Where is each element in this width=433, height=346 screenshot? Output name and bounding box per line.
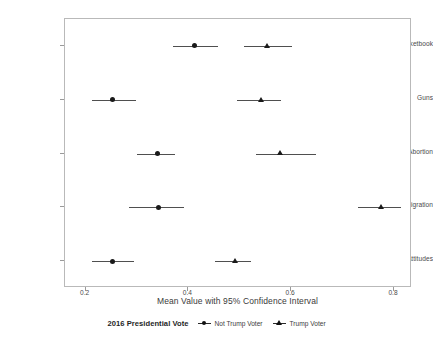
data-point-marker-circle (110, 97, 115, 102)
data-point-marker-circle (192, 43, 197, 48)
data-point-marker-triangle (258, 97, 264, 102)
x-tick-label-0.2: 0.2 (70, 289, 100, 296)
x-tick-label-0.6: 0.6 (275, 289, 305, 296)
data-point-marker-circle (156, 205, 161, 210)
x-tick-label-0.8: 0.8 (378, 289, 408, 296)
legend-title: 2016 Presidential Vote (107, 319, 188, 328)
data-point-marker-triangle (264, 43, 270, 48)
data-point-marker-triangle (277, 150, 283, 155)
legend-items: Not Trump VoterTrump Voter (198, 319, 326, 328)
legend-item-label: Trump Voter (290, 320, 326, 327)
legend-marker-circle-icon (198, 319, 211, 328)
plot-panel (64, 18, 411, 287)
legend-item-not-trump-voter[interactable]: Not Trump Voter (198, 319, 263, 328)
x-axis-title: Mean Value with 95% Confidence Interval (64, 296, 411, 306)
data-point-marker-triangle (232, 258, 238, 263)
chart-legend: 2016 Presidential Vote Not Trump VoterTr… (0, 314, 433, 332)
confidence-interval-chart: Predictor PocketbookGunsAbortionImmigrat… (0, 0, 433, 346)
data-point-marker-circle (155, 151, 160, 156)
legend-item-trump-voter[interactable]: Trump Voter (273, 319, 326, 328)
data-point-marker-circle (110, 259, 115, 264)
legend-item-label: Not Trump Voter (215, 320, 263, 327)
data-point-marker-triangle (378, 204, 384, 209)
x-tick-label-0.4: 0.4 (172, 289, 202, 296)
legend-marker-triangle-icon (273, 319, 286, 328)
confidence-interval-line (256, 154, 316, 155)
